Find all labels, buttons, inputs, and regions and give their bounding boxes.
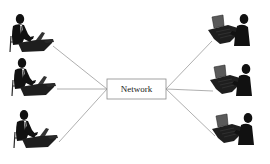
businessman-laptop-icon xyxy=(10,14,54,52)
network-node: Network xyxy=(107,79,166,99)
person-laptop-icon xyxy=(210,64,252,96)
connection-line xyxy=(53,46,107,89)
businessman-laptop-icon xyxy=(12,58,56,96)
person-laptop-icon xyxy=(212,113,254,145)
connection-line xyxy=(59,89,107,142)
left-user-3 xyxy=(14,110,58,148)
connection-line xyxy=(166,89,215,136)
right-connections xyxy=(166,41,215,136)
connection-line xyxy=(166,89,213,91)
connection-line xyxy=(166,41,212,89)
left-connections xyxy=(53,46,107,142)
network-diagram: Network xyxy=(0,0,270,164)
businessman-laptop-icon xyxy=(14,110,58,148)
right-user-3 xyxy=(212,113,254,145)
left-user-1 xyxy=(10,14,54,52)
left-user-2 xyxy=(12,58,56,96)
right-user-1 xyxy=(208,14,250,46)
person-laptop-icon xyxy=(208,14,250,46)
right-user-2 xyxy=(210,64,252,96)
network-label: Network xyxy=(121,84,153,94)
